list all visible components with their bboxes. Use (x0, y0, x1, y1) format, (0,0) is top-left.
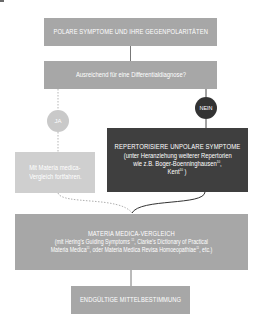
end-node-label: ENDGÜLTIGE MITTELBESTIMMUNG (80, 296, 181, 304)
punctuation: , (220, 160, 222, 167)
start-node-label: POLARE SYMPTOME UND IHRE GEGENPOLARITÄTE… (53, 28, 207, 36)
no-action-line3-text: Kent (168, 168, 180, 175)
no-action-node: REPERTORISIERE UNPOLARE SYMPTOME (unter … (107, 128, 248, 192)
no-action-title: REPERTORISIERE UNPOLARE SYMPTOME (115, 143, 241, 151)
compare-line1-rest: , Clarke's Dictionary of Practical (134, 238, 208, 245)
compare-line2-rest: , etc.) (199, 246, 212, 253)
question-node: Ausreichend für eine Differentialdiagnos… (44, 61, 217, 89)
compare-line1: (mit Hering's Guiding Symptoms 11, Clark… (55, 238, 208, 246)
compare-line2-mid: , oder Materia Medica Revisa Homoeopathi… (90, 246, 197, 253)
yes-action-line2: Vergleich fortfahren. (29, 173, 81, 181)
yes-action-line1: Mit Materia medica- (29, 164, 80, 172)
start-node: POLARE SYMPTOME UND IHRE GEGENPOLARITÄTE… (44, 18, 217, 46)
compare-line2: Materia Medica11, oder Materia Medica Re… (51, 246, 213, 254)
yes-label: JA (54, 118, 61, 124)
no-circle: NEIN (195, 97, 217, 119)
question-node-label: Ausreichend für eine Differentialdiagnos… (75, 71, 185, 79)
no-action-line2-text: wie z.B. Boger-Boenninghausen (133, 160, 217, 167)
yes-circle: JA (47, 110, 69, 132)
compare-line1-text: (mit Hering's Guiding Symptoms (55, 238, 131, 245)
no-action-line1: (unter Heranziehung weiterer Repertorien (124, 152, 232, 160)
compare-line2-text: Materia Medica (51, 246, 87, 253)
no-action-line3: Kent10 ) (168, 168, 187, 176)
end-node: ENDGÜLTIGE MITTELBESTIMMUNG (71, 286, 190, 314)
punctuation: ) (183, 168, 187, 175)
no-label: NEIN (199, 105, 212, 111)
yes-action-node: Mit Materia medica- Vergleich fortfahren… (15, 152, 95, 193)
no-action-line2: wie z.B. Boger-Boenninghausen10, (133, 160, 221, 168)
compare-title: MATERIA MEDICA-VERGLEICH (88, 230, 175, 238)
compare-node: MATERIA MEDICA-VERGLEICH (mit Hering's G… (15, 214, 248, 270)
